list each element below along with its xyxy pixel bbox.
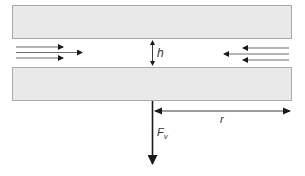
squeeze-flow-diagram: h r Fv — [0, 0, 305, 176]
left-flow-arrows — [16, 47, 82, 58]
force-label-subscript: v — [164, 132, 169, 141]
gap-label: h — [157, 46, 164, 60]
radius-label: r — [220, 113, 225, 125]
right-flow-arrows — [224, 48, 289, 60]
force-label: Fv — [157, 126, 169, 141]
bottom-plate — [13, 68, 292, 101]
top-plate — [13, 6, 292, 39]
